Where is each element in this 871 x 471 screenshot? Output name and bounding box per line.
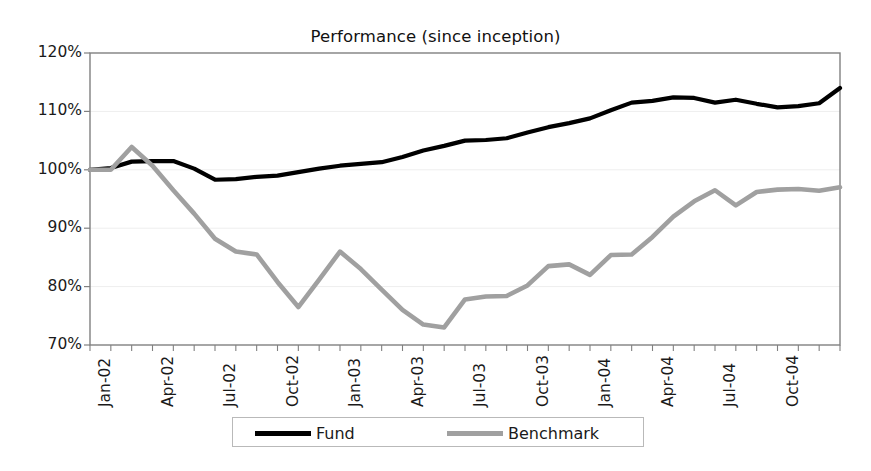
y-tick-label: 100% — [8, 160, 82, 178]
y-axis-ticks — [84, 53, 90, 345]
chart-plot-area — [0, 0, 871, 471]
performance-chart: Performance (since inception) 120%110%10… — [0, 0, 871, 471]
legend-item-benchmark: Benchmark — [447, 418, 599, 448]
y-tick-label: 70% — [8, 335, 82, 353]
chart-legend: Fund Benchmark — [232, 417, 644, 447]
x-tick-label: Oct-02 — [284, 355, 302, 407]
legend-label-fund: Fund — [316, 424, 355, 443]
x-tick-label: Jul-03 — [471, 363, 489, 407]
x-tick-label: Jul-02 — [221, 363, 239, 407]
x-tick-label: Jul-04 — [721, 363, 739, 407]
x-tick-label: Jan-04 — [596, 358, 614, 407]
x-tick-label: Apr-03 — [409, 356, 427, 407]
x-tick-label: Apr-02 — [159, 356, 177, 407]
legend-swatch-fund-icon — [255, 431, 311, 436]
legend-label-benchmark: Benchmark — [508, 424, 599, 443]
x-axis-ticks — [90, 345, 840, 351]
y-tick-label: 110% — [8, 101, 82, 119]
y-tick-label: 90% — [8, 218, 82, 236]
x-tick-label: Oct-03 — [534, 355, 552, 407]
y-tick-label: 120% — [8, 43, 82, 61]
x-tick-label: Jan-03 — [346, 358, 364, 407]
y-tick-label: 80% — [8, 277, 82, 295]
legend-item-fund: Fund — [255, 418, 355, 448]
x-tick-label: Jan-02 — [96, 358, 114, 407]
legend-swatch-benchmark-icon — [447, 431, 503, 436]
data-series — [90, 88, 840, 327]
x-tick-label: Oct-04 — [784, 355, 802, 407]
x-tick-label: Apr-04 — [659, 356, 677, 407]
